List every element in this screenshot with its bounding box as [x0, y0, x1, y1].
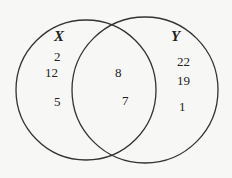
y-only-value: 22 [177, 55, 190, 68]
set-label-x: X [54, 30, 64, 43]
y-only-value: 1 [179, 100, 186, 113]
venn-circles [0, 0, 232, 178]
circle-x [16, 20, 156, 160]
intersection-value: 8 [115, 66, 122, 79]
intersection-value: 7 [122, 94, 129, 107]
x-only-value: 5 [54, 95, 61, 108]
circle-y [72, 17, 218, 163]
x-only-value: 2 [54, 50, 61, 63]
set-label-y: Y [171, 30, 180, 43]
y-only-value: 19 [177, 74, 190, 87]
venn-diagram: X 2 12 5 Y 22 19 1 8 7 [0, 0, 232, 178]
x-only-value: 12 [45, 66, 58, 79]
